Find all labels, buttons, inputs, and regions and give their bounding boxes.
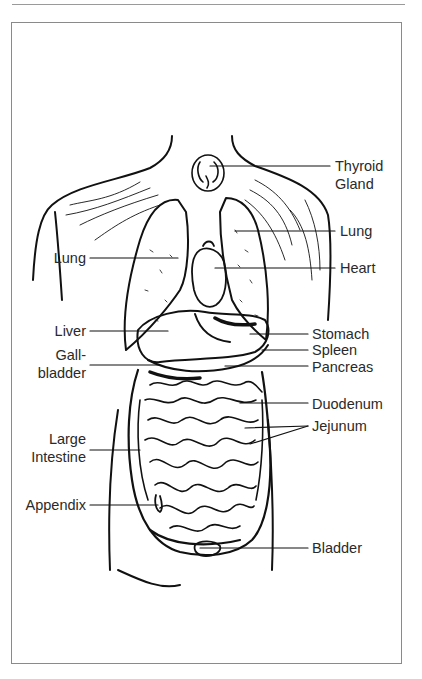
label-liver: Liver xyxy=(55,322,86,340)
label-large-intestine: Large Intestine xyxy=(31,430,86,466)
label-spleen: Spleen xyxy=(312,341,357,359)
label-lung-left: Lung xyxy=(54,249,86,267)
heart-drawing xyxy=(192,242,226,307)
label-thyroid-gland: Thyroid Gland xyxy=(335,157,383,193)
label-bladder: Bladder xyxy=(312,539,362,557)
label-duodenum: Duodenum xyxy=(312,395,383,413)
label-gallbladder: Gall- bladder xyxy=(38,346,86,382)
label-gallbladder-line1: Gall- xyxy=(38,346,86,364)
label-thyroid-line1: Thyroid xyxy=(335,157,383,175)
lungs-drawing xyxy=(125,198,268,350)
label-jejunum: Jejunum xyxy=(312,417,367,435)
thyroid-gland-drawing xyxy=(192,155,224,191)
label-heart: Heart xyxy=(340,259,375,277)
label-thyroid-line2: Gland xyxy=(335,175,383,193)
label-large-intestine-line2: Intestine xyxy=(31,448,86,466)
label-gallbladder-line2: bladder xyxy=(38,364,86,382)
label-pancreas: Pancreas xyxy=(312,358,373,376)
label-large-intestine-line1: Large xyxy=(31,430,86,448)
appendix-drawing xyxy=(155,495,162,512)
label-lung-right: Lung xyxy=(340,222,372,240)
label-appendix: Appendix xyxy=(26,496,86,514)
lung-texture xyxy=(145,230,258,321)
